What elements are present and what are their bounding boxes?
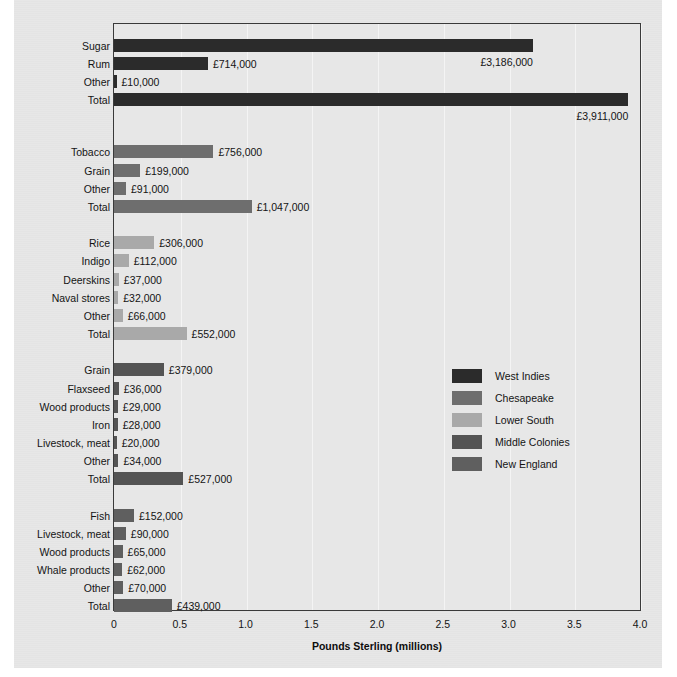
- legend-swatch: [452, 435, 482, 449]
- legend-label: Chesapeake: [495, 392, 554, 404]
- chart-legend: West IndiesChesapeakeLower SouthMiddle C…: [452, 365, 570, 475]
- plot-area: [113, 23, 641, 611]
- x-axis-title: Pounds Sterling (millions): [113, 640, 641, 652]
- legend-item-chesapeake: Chesapeake: [452, 387, 570, 409]
- x-axis-tick-label: 1.5: [291, 618, 331, 630]
- x-axis-tick-label: 3.5: [554, 618, 594, 630]
- x-axis-tick-label: 2.0: [357, 618, 397, 630]
- gridline: [247, 24, 248, 610]
- x-axis-tick-label: 0.5: [160, 618, 200, 630]
- legend-item-middle-colonies: Middle Colonies: [452, 431, 570, 453]
- legend-item-new-england: New England: [452, 453, 570, 475]
- gridline: [378, 24, 379, 610]
- x-axis-tick-label: 1.0: [226, 618, 266, 630]
- legend-label: Lower South: [495, 414, 554, 426]
- x-axis-tick-label: 0: [94, 618, 134, 630]
- gridline: [444, 24, 445, 610]
- chart-page: Sugar£3,186,000Rum£714,000Other£10,000To…: [0, 0, 677, 677]
- x-axis-tick-label: 4.0: [620, 618, 660, 630]
- legend-label: New England: [495, 458, 557, 470]
- gridline: [510, 24, 511, 610]
- legend-swatch: [452, 457, 482, 471]
- legend-item-lower-south: Lower South: [452, 409, 570, 431]
- gridline: [575, 24, 576, 610]
- gridline: [312, 24, 313, 610]
- legend-swatch: [452, 369, 482, 383]
- legend-label: West Indies: [495, 370, 550, 382]
- x-axis-tick-label: 2.5: [423, 618, 463, 630]
- gridline: [641, 24, 642, 610]
- legend-swatch: [452, 413, 482, 427]
- legend-swatch: [452, 391, 482, 405]
- legend-label: Middle Colonies: [495, 436, 570, 448]
- legend-item-west-indies: West Indies: [452, 365, 570, 387]
- x-axis-tick-label: 3.0: [489, 618, 529, 630]
- gridline: [181, 24, 182, 610]
